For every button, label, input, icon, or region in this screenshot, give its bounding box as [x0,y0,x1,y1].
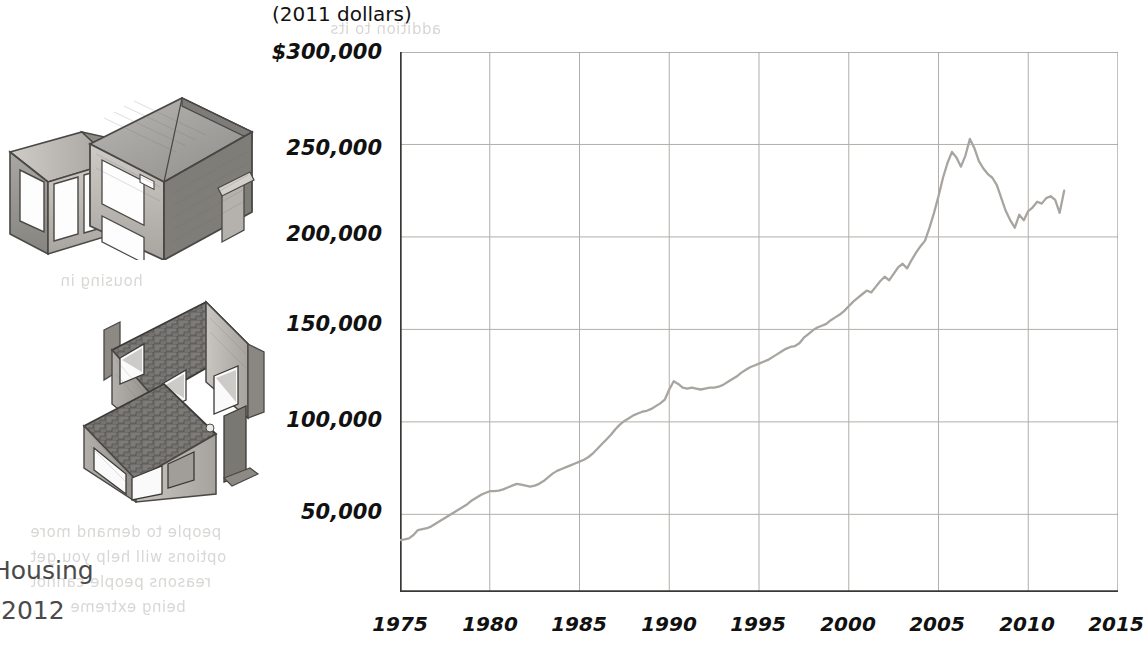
house-with-garage-svg [4,84,266,260]
shingled-house-svg [58,288,278,503]
shingled-house-sketch [58,288,278,503]
y-tick-label-300000: $300,000 [258,40,382,64]
house-with-garage-sketch [4,84,266,260]
x-tick-label-2010: 2010 [987,612,1067,636]
y-tick-label-50000: 50,000 [258,500,382,524]
y-tick-label-200000: 200,000 [258,222,382,246]
y-tick-label-150000: 150,000 [258,312,382,336]
chart-plot-area [400,52,1118,592]
caption-line-2: -2012 [0,596,65,625]
y-tick-label-250000: 250,000 [258,136,382,160]
x-tick-label-2015: 2015 [1076,612,1148,636]
x-tick-label-1995: 1995 [718,612,798,636]
x-tick-label-2000: 2000 [808,612,888,636]
x-tick-label-1975: 1975 [360,612,440,636]
x-tick-label-1990: 1990 [629,612,709,636]
chart-gridlines [400,52,1118,592]
x-tick-label-2005: 2005 [897,612,977,636]
ghost-text-2: people to demand more [30,523,221,541]
x-tick-label-1980: 1980 [450,612,530,636]
line-chart [400,52,1118,592]
x-tick-label-1985: 1985 [539,612,619,636]
series-line-median-home-price [400,139,1064,540]
ghost-text-5: being extreme [70,598,186,616]
caption-line-1: Housing [0,556,94,585]
y-axis-unit-label: (2011 dollars) [272,2,412,26]
y-tick-label-100000: 100,000 [258,408,382,432]
